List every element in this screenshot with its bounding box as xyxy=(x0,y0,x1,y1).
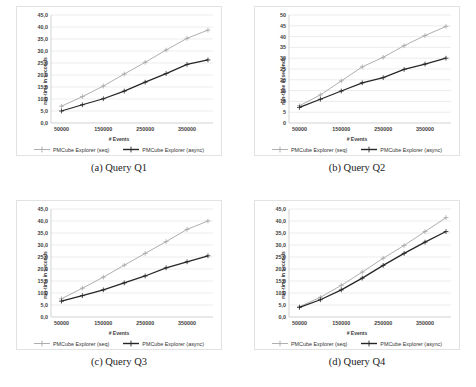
y-tick-label: 25,0 xyxy=(38,254,49,260)
data-point-marker xyxy=(80,94,85,99)
data-point-marker xyxy=(185,259,190,264)
chart-legend: PMCube Explorer (seq)PMCube Explorer (as… xyxy=(17,340,221,347)
data-point-marker xyxy=(143,80,148,85)
x-tick-label: 350000 xyxy=(416,126,434,132)
x-tick-label: 350000 xyxy=(178,320,196,326)
data-point-marker xyxy=(143,274,148,279)
legend-label: PMCube Explorer (async) xyxy=(142,341,204,347)
caption-q4: (d) Query Q4 xyxy=(329,356,386,367)
chart-legend: PMCube Explorer (seq)PMCube Explorer (as… xyxy=(255,340,459,347)
data-point-marker xyxy=(381,75,386,80)
data-point-marker xyxy=(101,275,106,280)
data-point-marker xyxy=(318,97,323,102)
x-axis-title: # Events xyxy=(17,136,221,142)
series-line-async xyxy=(299,58,446,107)
legend-label: PMCube Explorer (seq) xyxy=(53,147,109,153)
y-tick-label: 0 xyxy=(283,120,286,126)
data-point-marker xyxy=(381,55,386,60)
data-point-marker xyxy=(164,265,169,270)
x-axis-title: # Events xyxy=(255,330,459,336)
legend-item-seq[interactable]: PMCube Explorer (seq) xyxy=(272,340,347,347)
y-tick-label: 30,0 xyxy=(38,242,49,248)
data-point-marker xyxy=(185,36,190,41)
plot-area: 0,05,010,015,020,025,030,035,040,045,050… xyxy=(289,209,451,317)
y-tick-label: 15 xyxy=(280,88,286,94)
legend-item-async[interactable]: PMCube Explorer (async) xyxy=(361,340,442,347)
data-point-marker xyxy=(122,72,127,77)
y-tick-label: 5 xyxy=(283,109,286,115)
legend-label: PMCube Explorer (seq) xyxy=(291,147,347,153)
x-tick-label: 50000 xyxy=(292,320,307,326)
data-point-marker xyxy=(143,60,148,65)
legend-marker-async xyxy=(123,146,139,153)
series-line-seq xyxy=(61,30,208,106)
chart-card-q4: run-time in seconds# Events0,05,010,015,… xyxy=(254,200,460,350)
data-point-marker xyxy=(360,80,365,85)
x-tick-label: 350000 xyxy=(416,320,434,326)
data-point-marker xyxy=(101,84,106,89)
legend-marker-async xyxy=(361,340,377,347)
series-line-seq xyxy=(61,221,208,299)
x-axis-title: # Events xyxy=(17,330,221,336)
data-point-marker xyxy=(206,253,211,258)
data-point-marker xyxy=(164,239,169,244)
x-tick-label: 150000 xyxy=(332,126,350,132)
y-tick-label: 0,0 xyxy=(41,314,49,320)
data-point-marker xyxy=(185,227,190,232)
x-tick-label: 250000 xyxy=(374,126,392,132)
x-tick-label: 50000 xyxy=(54,320,69,326)
y-tick-label: 10,0 xyxy=(38,290,49,296)
caption-q2: (b) Query Q2 xyxy=(329,162,386,173)
chart-card-q3: run-time in seconds# Events0,05,010,015,… xyxy=(16,200,222,350)
x-tick-label: 350000 xyxy=(178,126,196,132)
series-line-seq xyxy=(299,26,446,105)
data-point-marker xyxy=(206,219,211,224)
y-tick-label: 45,0 xyxy=(38,12,49,18)
legend-label: PMCube Explorer (seq) xyxy=(291,341,347,347)
chart-card-q1: run-time in seconds# Events0,05,010,015,… xyxy=(16,6,222,156)
chart-q3: run-time in seconds# Events0,05,010,015,… xyxy=(17,201,221,349)
legend-marker-seq xyxy=(34,340,50,347)
data-point-marker xyxy=(339,283,344,288)
data-point-marker xyxy=(143,251,148,256)
legend-marker-async xyxy=(361,146,377,153)
legend-item-async[interactable]: PMCube Explorer (async) xyxy=(123,146,204,153)
y-tick-label: 40,0 xyxy=(38,24,49,30)
x-tick-label: 250000 xyxy=(136,126,154,132)
data-point-marker xyxy=(101,96,106,101)
chart-q4: run-time in seconds# Events0,05,010,015,… xyxy=(255,201,459,349)
legend-label: PMCube Explorer (async) xyxy=(380,147,442,153)
y-tick-label: 35,0 xyxy=(38,230,49,236)
legend-item-seq[interactable]: PMCube Explorer (seq) xyxy=(34,340,109,347)
legend-marker-seq xyxy=(272,340,288,347)
data-point-marker xyxy=(122,281,127,286)
chart-card-q2: run-time in seconds# Events0510152025303… xyxy=(254,6,460,156)
y-tick-label: 25,0 xyxy=(38,60,49,66)
legend-item-async[interactable]: PMCube Explorer (async) xyxy=(123,340,204,347)
legend-marker-seq xyxy=(34,146,50,153)
data-point-marker xyxy=(339,89,344,94)
figure-panel-a: run-time in seconds# Events0,05,010,015,… xyxy=(0,0,238,194)
y-tick-label: 30,0 xyxy=(38,48,49,54)
x-tick-label: 50000 xyxy=(292,126,307,132)
y-tick-label: 45 xyxy=(280,23,286,29)
data-point-marker xyxy=(59,104,64,109)
data-point-marker xyxy=(444,24,449,29)
y-tick-label: 10 xyxy=(280,98,286,104)
data-point-marker xyxy=(402,67,407,72)
data-point-marker xyxy=(80,102,85,107)
legend-item-seq[interactable]: PMCube Explorer (seq) xyxy=(34,146,109,153)
plot-area: 0510152025303540455050000150000250000350… xyxy=(289,15,451,123)
x-tick-label: 250000 xyxy=(374,320,392,326)
legend-item-async[interactable]: PMCube Explorer (async) xyxy=(361,146,442,153)
data-point-marker xyxy=(206,58,211,63)
y-tick-label: 40,0 xyxy=(38,218,49,224)
y-tick-label: 35 xyxy=(280,44,286,50)
data-point-marker xyxy=(122,263,127,268)
y-tick-label: 5,0 xyxy=(279,302,287,308)
legend-label: PMCube Explorer (async) xyxy=(142,147,204,153)
y-tick-label: 30 xyxy=(280,55,286,61)
data-point-marker xyxy=(423,62,428,67)
legend-item-seq[interactable]: PMCube Explorer (seq) xyxy=(272,146,347,153)
data-point-marker xyxy=(80,286,85,291)
